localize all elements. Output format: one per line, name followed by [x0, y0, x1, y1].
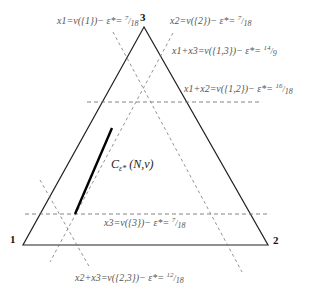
constraint-label-x1: x1=v({1})− ε*= 7/18: [57, 15, 138, 28]
core-label: Cε* (N,v): [111, 158, 154, 173]
vertex-1-label: 1: [10, 234, 16, 245]
constraint-line-x2x3: [40, 180, 90, 268]
simplex-triangle: [23, 27, 268, 245]
vertex-2-label: 2: [273, 235, 279, 246]
constraint-line-x1: [113, 32, 242, 272]
vertex-3-label: 3: [140, 12, 146, 23]
constraint-label-x1x3: x1+x3=v({1,3})− ε*= 14/9: [172, 45, 277, 58]
constraint-label-x2x3: x2+x3=v({2,3})− ε*= 12/18: [75, 272, 184, 285]
constraint-label-x3: x3=v({3})− ε*= 7/18: [104, 217, 185, 230]
constraint-label-x2: x2=v({2})− ε*= 7/18: [170, 15, 251, 28]
constraint-label-x1x2: x1+x2=v({1,2})− ε*= 16/18: [184, 83, 293, 96]
